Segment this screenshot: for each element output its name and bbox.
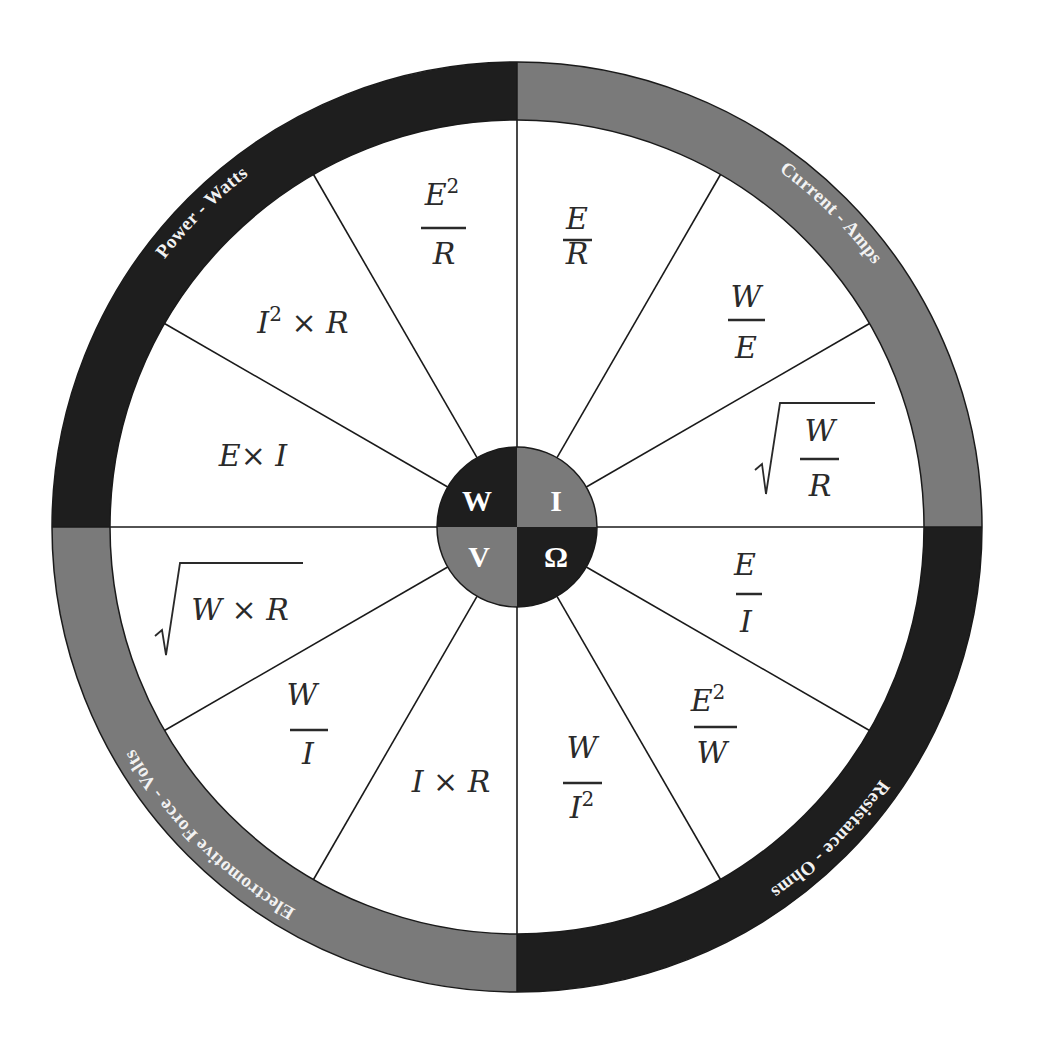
svg-text:E× I: E× I: [218, 438, 289, 473]
hub-symbol-volts: V: [468, 540, 490, 573]
hub-symbol-current: I: [550, 484, 562, 517]
svg-text:E: E: [734, 330, 757, 365]
svg-text:E2: E2: [690, 680, 726, 718]
svg-text:I2: I2: [569, 787, 595, 825]
svg-text:I: I: [739, 604, 753, 639]
svg-text:I: I: [301, 736, 315, 771]
svg-text:W: W: [805, 413, 838, 448]
formula-e-times-i: E× I: [218, 438, 289, 473]
svg-text:W: W: [287, 677, 320, 712]
formula-e-over-r: E R: [563, 201, 592, 271]
svg-text:E: E: [733, 547, 756, 582]
formula-w-over-i: W I: [287, 677, 328, 771]
svg-text:R: R: [808, 468, 832, 503]
svg-text:W × R: W × R: [191, 592, 289, 627]
formula-e-over-i: E I: [733, 547, 762, 639]
hub-symbol-watts: W: [462, 484, 492, 517]
svg-text:W: W: [697, 735, 730, 770]
hub-symbol-ohms: Ω: [544, 540, 568, 573]
svg-text:I × R: I × R: [411, 764, 491, 799]
svg-text:E: E: [565, 201, 588, 236]
formula-e-squared-over-w: E2 W: [690, 680, 737, 770]
svg-text:I2 × R: I2 × R: [256, 302, 348, 340]
formula-i-times-r: I × R: [411, 764, 491, 799]
ohms-law-wheel: Power - Watts Current - Amps Resistance …: [0, 0, 1037, 1041]
svg-text:R: R: [565, 236, 589, 271]
svg-text:R: R: [432, 236, 456, 271]
formula-e-squared-over-r: E2 R: [421, 174, 466, 271]
svg-text:W: W: [731, 279, 764, 314]
hub: W I V Ω: [437, 447, 597, 607]
formula-sqrt-w-over-r: W R: [755, 403, 875, 503]
formula-w-over-e: W E: [728, 279, 765, 365]
formula-w-over-i-squared: W I2: [563, 730, 602, 825]
svg-text:W: W: [567, 730, 600, 765]
svg-text:E2: E2: [424, 174, 460, 212]
formula-i-squared-times-r: I2 × R: [256, 302, 348, 340]
formula-sqrt-w-times-r: W × R: [155, 563, 303, 655]
